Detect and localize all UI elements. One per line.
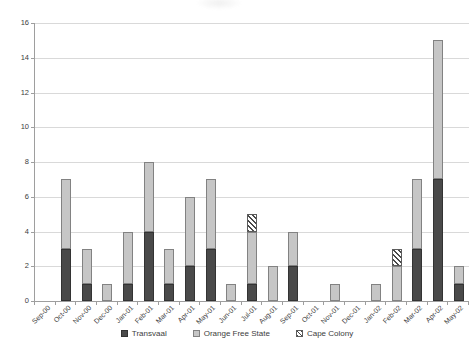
legend-label-cape-colony: Cape Colony [307,329,353,338]
bar-slot-mar-02 [407,23,428,301]
x-tick-label-mar-02: Mar-02 [403,304,424,325]
bar-segment-orange-free-state-dec-00 [102,284,112,301]
bar-segment-transvaal-may-01 [206,249,216,301]
bar-slot-feb-02 [386,23,407,301]
bar-slot-jan-02 [366,23,387,301]
y-tick-mark [31,127,34,128]
x-tick-label-jan-02: Jan-02 [362,304,383,325]
x-tick-label-may-01: May-01 [195,304,217,326]
bar-segment-orange-free-state-jul-01 [247,232,257,284]
bar-slot-nov-00 [76,23,97,301]
legend-item-cape-colony: Cape Colony [296,329,353,338]
bar-slot-dec-01 [345,23,366,301]
bar-slot-nov-01 [324,23,345,301]
bar-segment-orange-free-state-aug-01 [268,266,278,301]
y-tick-label: 4 [0,228,29,236]
legend-item-transvaal: Transvaal [121,329,167,338]
bar-segment-transvaal-jul-01 [247,284,257,301]
bar-segment-transvaal-mar-01 [164,284,174,301]
x-tick-label-sep-00: Sep-00 [30,304,52,326]
legend-label-orange-free-state: Orange Free State [204,329,270,338]
legend-swatch-orange-free-state [193,330,200,337]
bar-slot-mar-01 [159,23,180,301]
y-tick-mark [31,23,34,24]
legend-swatch-transvaal [121,330,128,337]
bar-slot-apr-01 [180,23,201,301]
x-tick-label-aug-01: Aug-01 [258,304,280,326]
bar-segment-orange-free-state-nov-01 [330,284,340,301]
x-tick-label-apr-01: Apr-01 [176,304,197,325]
bar-slot-dec-00 [97,23,118,301]
bar-slot-sep-00 [35,23,56,301]
bar-segment-orange-free-state-mar-02 [412,179,422,249]
bar-slot-oct-01 [304,23,325,301]
y-tick-label: 2 [0,262,29,270]
bar-segment-orange-free-state-mar-01 [164,249,174,284]
bar-segment-orange-free-state-feb-01 [144,162,154,232]
bar-slot-aug-01 [262,23,283,301]
y-tick-label: 12 [0,89,29,97]
bar-slot-jan-01 [118,23,139,301]
y-tick-label: 6 [0,193,29,201]
bar-segment-orange-free-state-jun-01 [226,284,236,301]
bar-segment-orange-free-state-feb-02 [392,266,402,301]
bar-segment-cape-colony-feb-02 [392,249,402,266]
x-tick-label-dec-01: Dec-01 [340,304,362,326]
bar-segment-transvaal-nov-00 [82,284,92,301]
legend-label-transvaal: Transvaal [132,329,167,338]
bar-segment-transvaal-feb-01 [144,232,154,302]
bar-segment-transvaal-apr-02 [433,179,443,301]
x-tick-label-jan-01: Jan-01 [114,304,135,325]
y-tick-label: 8 [0,158,29,166]
bar-slot-jul-01 [242,23,263,301]
bar-segment-transvaal-may-02 [454,284,464,301]
x-tick-label-jun-01: Jun-01 [217,304,238,325]
scan-artifact-smudge [196,0,242,10]
x-tick-label-mar-01: Mar-01 [155,304,176,325]
bar-segment-orange-free-state-nov-00 [82,249,92,284]
bar-segment-orange-free-state-sep-01 [288,232,298,267]
bar-segment-transvaal-jan-01 [123,284,133,301]
bar-segment-orange-free-state-apr-02 [433,40,443,179]
y-tick-mark [31,58,34,59]
x-tick-label-apr-02: Apr-02 [424,304,445,325]
bar-segment-orange-free-state-apr-01 [185,197,195,267]
bar-segment-orange-free-state-oct-00 [61,179,71,249]
x-tick-label-oct-01: Oct-01 [300,304,321,325]
bar-segment-orange-free-state-jan-02 [371,284,381,301]
bar-segment-orange-free-state-may-02 [454,266,464,283]
x-tick-label-jul-01: Jul-01 [240,304,259,323]
chart-canvas: 0246810121416 Sep-00Oct-00Nov-00Dec-00Ja… [0,0,474,356]
y-tick-mark [31,266,34,267]
bar-segment-transvaal-apr-01 [185,266,195,301]
y-tick-mark [31,162,34,163]
x-tick-label-may-02: May-02 [443,304,465,326]
y-tick-mark [31,232,34,233]
bar-segment-transvaal-oct-00 [61,249,71,301]
bar-segment-transvaal-mar-02 [412,249,422,301]
y-tick-mark [31,93,34,94]
x-tick-label-nov-00: Nov-00 [72,304,94,326]
y-tick-mark [31,197,34,198]
plot-area [34,23,469,302]
x-tick-label-oct-00: Oct-00 [52,304,73,325]
x-tick-label-feb-01: Feb-01 [134,304,155,325]
bar-segment-orange-free-state-jan-01 [123,232,133,284]
bar-slot-sep-01 [283,23,304,301]
y-tick-label: 10 [0,123,29,131]
legend-item-orange-free-state: Orange Free State [193,329,270,338]
bar-slot-may-02 [448,23,469,301]
bars-layer [35,23,469,301]
x-tick-label-dec-00: Dec-00 [92,304,114,326]
bar-segment-cape-colony-jul-01 [247,214,257,231]
bar-slot-apr-02 [428,23,449,301]
bar-slot-oct-00 [56,23,77,301]
y-tick-label: 16 [0,19,29,27]
bar-slot-may-01 [200,23,221,301]
x-tick-label-sep-01: Sep-01 [278,304,300,326]
x-tick-label-nov-01: Nov-01 [320,304,342,326]
bar-slot-feb-01 [138,23,159,301]
legend-swatch-cape-colony [296,330,303,337]
y-tick-label: 0 [0,297,29,305]
bar-slot-jun-01 [221,23,242,301]
